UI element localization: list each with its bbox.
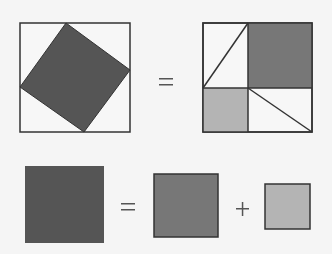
long-leg-square-inside bbox=[248, 23, 312, 88]
left-composition bbox=[20, 23, 130, 132]
equals-sign-top bbox=[159, 78, 173, 86]
plus-sign bbox=[236, 202, 249, 216]
a-squared-square bbox=[154, 174, 218, 237]
pythagorean-diagram bbox=[0, 0, 332, 254]
right-composition bbox=[203, 23, 312, 132]
b-squared-square bbox=[265, 184, 310, 229]
c-squared-square bbox=[25, 166, 104, 243]
equals-sign-bottom bbox=[121, 203, 135, 211]
short-leg-square-inside bbox=[203, 88, 248, 132]
